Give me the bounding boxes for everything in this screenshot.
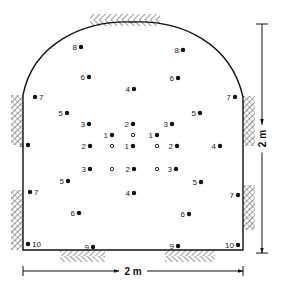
charged-hole: 4 bbox=[126, 85, 137, 94]
filled-circle-icon bbox=[155, 133, 159, 137]
hole-sequence-number: 3 bbox=[81, 120, 86, 129]
filled-circle-icon bbox=[175, 144, 179, 148]
filled-circle-icon bbox=[233, 95, 237, 99]
empty-relief-hole bbox=[131, 133, 134, 136]
filled-circle-icon bbox=[132, 191, 136, 195]
charged-hole: 10 bbox=[26, 240, 42, 249]
hole-sequence-number: 5 bbox=[193, 178, 198, 187]
charged-hole: 2 bbox=[125, 120, 136, 129]
right-lower-hatch bbox=[243, 185, 255, 230]
charged-hole: 8 bbox=[73, 43, 84, 52]
left-lower-hatch bbox=[11, 190, 23, 250]
height-dimension-label: 2 m bbox=[257, 130, 268, 147]
charged-hole: 10 bbox=[225, 241, 240, 250]
charged-hole: 7 bbox=[227, 93, 238, 102]
hole-sequence-number: 9 bbox=[85, 243, 90, 252]
hole-sequence-number: 6 bbox=[170, 74, 175, 83]
hole-sequence-number: 1 bbox=[104, 131, 109, 140]
drill-holes: 88664775532311421243235574766109910 bbox=[20, 43, 241, 252]
hole-sequence-number: 1 bbox=[149, 131, 154, 140]
charged-hole: 1 bbox=[149, 131, 160, 140]
open-circle-icon bbox=[155, 144, 158, 147]
filled-circle-icon bbox=[28, 190, 32, 194]
filled-circle-icon bbox=[77, 211, 81, 215]
hole-sequence-number: 10 bbox=[32, 240, 41, 249]
charged-hole: 7 bbox=[230, 191, 241, 200]
charged-hole: 2 bbox=[82, 142, 93, 151]
filled-circle-icon bbox=[79, 45, 83, 49]
filled-circle-icon bbox=[110, 133, 114, 137]
hole-sequence-number: 8 bbox=[175, 46, 180, 55]
charged-hole: 3 bbox=[82, 165, 93, 174]
width-dimension: 2 m bbox=[23, 266, 243, 277]
hole-sequence-number: 5 bbox=[60, 177, 65, 186]
hole-sequence-number: 8 bbox=[73, 43, 78, 52]
hole-sequence-number: 4 bbox=[126, 189, 131, 198]
height-dimension: 2 m bbox=[256, 24, 268, 253]
charged-hole: 3 bbox=[168, 165, 179, 174]
width-dimension-label: 2 m bbox=[124, 266, 141, 277]
empty-relief-hole bbox=[110, 167, 113, 170]
hole-sequence-number: 7 bbox=[227, 93, 232, 102]
charged-hole: 5 bbox=[193, 178, 204, 187]
hole-sequence-number: 4 bbox=[126, 85, 131, 94]
hole-sequence-number: 7 bbox=[39, 93, 44, 102]
filled-circle-icon bbox=[132, 87, 136, 91]
filled-circle-icon bbox=[87, 122, 91, 126]
open-circle-icon bbox=[131, 133, 134, 136]
hole-sequence-number: 7 bbox=[230, 191, 235, 200]
filled-circle-icon bbox=[187, 212, 191, 216]
hole-sequence-number: 2 bbox=[169, 142, 174, 151]
hole-sequence-number: 3 bbox=[82, 165, 87, 174]
filled-circle-icon bbox=[131, 122, 135, 126]
charged-hole: 5 bbox=[192, 109, 203, 118]
hole-sequence-number: 3 bbox=[168, 165, 173, 174]
hole-sequence-number: 6 bbox=[71, 209, 76, 218]
filled-circle-icon bbox=[132, 167, 136, 171]
filled-circle-icon bbox=[88, 144, 92, 148]
empty-relief-hole bbox=[155, 167, 158, 170]
filled-circle-icon bbox=[88, 167, 92, 171]
filled-circle-icon bbox=[176, 76, 180, 80]
hole-sequence-number: 2 bbox=[126, 165, 131, 174]
hole-sequence-number: 6 bbox=[181, 210, 186, 219]
drill-pattern-diagram: 2 m 2 m 88664775532311421243235574766109… bbox=[0, 0, 290, 290]
hole-sequence-number: 10 bbox=[225, 241, 234, 250]
open-circle-icon bbox=[155, 167, 158, 170]
empty-relief-hole bbox=[155, 144, 158, 147]
hole-sequence-number: 5 bbox=[59, 109, 64, 118]
filled-circle-icon bbox=[26, 143, 30, 147]
filled-circle-icon bbox=[174, 167, 178, 171]
charged-hole: 8 bbox=[175, 46, 186, 55]
hole-sequence-number: 5 bbox=[192, 109, 197, 118]
hole-sequence-number: 2 bbox=[125, 120, 130, 129]
open-circle-icon bbox=[110, 167, 113, 170]
charged-hole: 7 bbox=[33, 93, 44, 102]
filled-circle-icon bbox=[170, 122, 174, 126]
filled-circle-icon bbox=[87, 75, 91, 79]
filled-circle-icon bbox=[181, 48, 185, 52]
filled-circle-icon bbox=[236, 243, 240, 247]
filled-circle-icon bbox=[199, 180, 203, 184]
filled-circle-icon bbox=[198, 111, 202, 115]
charged-hole: 2 bbox=[169, 142, 180, 151]
charged-hole: 7 bbox=[28, 188, 39, 197]
charged-hole: 3 bbox=[164, 120, 175, 129]
charged-hole: 6 bbox=[71, 209, 82, 218]
charged-hole: 3 bbox=[81, 120, 92, 129]
right-wall-hatch bbox=[243, 96, 255, 146]
charged-hole: 6 bbox=[170, 74, 181, 83]
open-circle-icon bbox=[110, 144, 113, 147]
charged-hole: 6 bbox=[181, 210, 192, 219]
charged-hole: 6 bbox=[81, 73, 92, 82]
filled-circle-icon bbox=[33, 95, 37, 99]
filled-circle-icon bbox=[91, 245, 95, 249]
charged-hole: 2 bbox=[126, 165, 137, 174]
charged-hole: 4 bbox=[126, 189, 137, 198]
hole-sequence-number: 9 bbox=[170, 242, 175, 251]
hole-sequence-number: 3 bbox=[164, 120, 169, 129]
floor-right-hatch bbox=[165, 250, 215, 262]
floor-left-hatch bbox=[60, 250, 105, 262]
charged-hole: 4 bbox=[212, 142, 223, 151]
filled-circle-icon bbox=[176, 244, 180, 248]
